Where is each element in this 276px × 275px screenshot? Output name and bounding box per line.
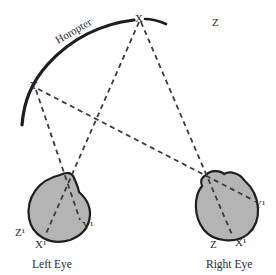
horopter-arc-right-tail — [145, 19, 166, 24]
right-retina-y-label: Y¹ — [254, 198, 265, 210]
left-retina-y-label: Y¹ — [82, 219, 93, 231]
point-y-label: Y — [30, 79, 38, 91]
right-retina-x-label: X¹ — [235, 236, 246, 248]
right-retina-z-label: Z — [210, 238, 217, 250]
line-x-right — [141, 22, 233, 237]
point-z-label: Z — [212, 16, 219, 28]
left-eye — [29, 173, 90, 242]
left-retina-x-label: X¹ — [35, 238, 46, 250]
point-x-label: X — [135, 12, 143, 24]
right-eye — [196, 171, 258, 240]
right-eye-caption: Right Eye — [206, 258, 252, 271]
horopter-diagram: Horopter X Z Y Z¹ X¹ Y¹ Left Eye Z X¹ Y¹… — [0, 0, 276, 275]
left-eye-caption: Left Eye — [32, 258, 72, 271]
left-retina-z-label: Z¹ — [15, 226, 25, 238]
